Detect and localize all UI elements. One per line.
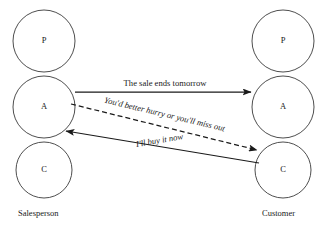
transaction-labels: The sale ends tomorrowYou'd better hurry… [103, 78, 226, 149]
transaction-arrows [66, 92, 259, 163]
actor-label-customer: Customer [262, 208, 295, 218]
transactional-analysis-diagram: PACPAC The sale ends tomorrowYou'd bette… [0, 0, 324, 231]
ego-state-salesperson-parent: P [13, 10, 75, 72]
ego-state-letter-child: C [280, 164, 286, 174]
ego-state-salesperson-adult: A [13, 76, 75, 138]
ego-state-letter-parent: P [281, 35, 286, 45]
diagram-canvas: PACPAC The sale ends tomorrowYou'd bette… [0, 0, 324, 231]
ego-state-letter-adult: A [41, 101, 48, 111]
actor-labels: SalespersonCustomer [18, 208, 295, 218]
ego-state-letter-parent: P [42, 35, 47, 45]
ego-state-salesperson-child: C [16, 142, 72, 198]
actor-label-salesperson: Salesperson [18, 208, 59, 218]
transaction-label-social-message: The sale ends tomorrow [124, 78, 208, 88]
ego-state-letter-child: C [41, 164, 47, 174]
ego-state-customer-adult: A [252, 76, 314, 138]
ego-state-customer-child: C [255, 142, 311, 198]
ego-state-letter-adult: A [280, 101, 287, 111]
ego-state-circles: PACPAC [13, 10, 314, 198]
ego-state-customer-parent: P [252, 10, 314, 72]
